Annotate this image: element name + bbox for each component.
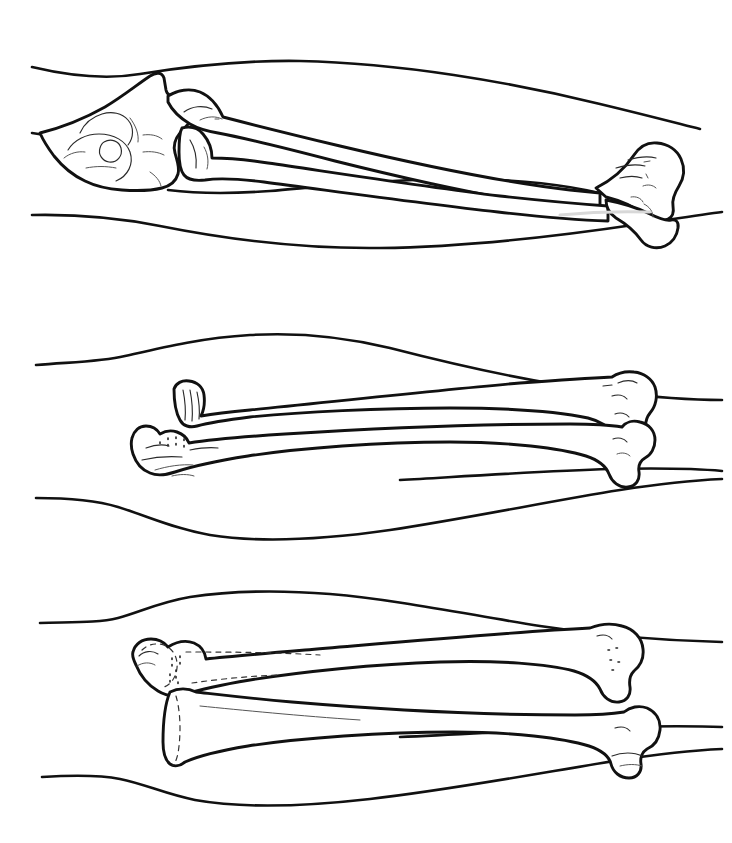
ulna-outline [131, 421, 655, 487]
soft-tissue-mid-right-contour [400, 469, 722, 480]
panel-supination [0, 570, 732, 843]
ulna-texture-5 [172, 475, 194, 477]
panel-neutral-drawing [0, 290, 732, 570]
panel-neutral [0, 290, 732, 570]
panel-pronation [0, 0, 732, 290]
distal-humerus-outline [40, 73, 199, 190]
radius-outline [133, 624, 644, 702]
panel-supination-drawing [0, 570, 732, 843]
panel-pronation-drawing [0, 0, 732, 290]
anatomical-figure: Forearm rotation: radius and ulna in thr… [0, 0, 732, 843]
soft-tissue-lower-contour [36, 479, 722, 540]
